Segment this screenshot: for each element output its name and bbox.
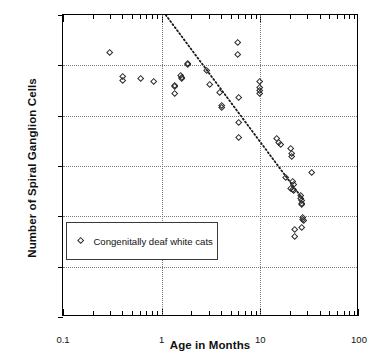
- x-axis-tick-minor: [245, 311, 246, 316]
- legend-entry: Congenitally deaf white cats: [67, 223, 217, 259]
- x-axis-tick-top: [256, 15, 257, 20]
- y-axis-tick: [58, 317, 63, 318]
- y-axis-tick: [58, 166, 63, 167]
- x-axis-tick-minor: [344, 311, 345, 316]
- x-axis-tick-minor: [290, 311, 291, 316]
- x-axis-tick-top: [132, 15, 133, 20]
- x-axis-tick-top: [337, 15, 338, 20]
- x-axis-tick-minor: [191, 311, 192, 316]
- y-axis-tick: [58, 216, 63, 217]
- data-point-marker: [137, 75, 145, 83]
- x-axis-tick-top: [209, 15, 210, 20]
- x-axis-title: Age in Months: [62, 339, 358, 351]
- x-axis-tick-minor: [307, 311, 308, 316]
- data-point-marker: [206, 81, 214, 89]
- x-axis-tick-minor: [93, 311, 94, 316]
- data-point-marker: [203, 67, 211, 75]
- gridline-horizontal: [63, 216, 357, 217]
- x-axis-tick-top: [307, 15, 308, 20]
- y-axis-title: Number of Spiral Ganglion Cells: [26, 18, 38, 318]
- x-axis-tick-top: [245, 15, 246, 20]
- x-axis-tick-top: [344, 15, 345, 20]
- x-axis-tick-minor: [251, 311, 252, 316]
- x-axis-tick-minor: [231, 311, 232, 316]
- gridline-horizontal: [63, 166, 357, 167]
- data-point-marker: [235, 133, 243, 141]
- x-axis-tick-minor: [132, 311, 133, 316]
- y-axis-tick: [58, 116, 63, 117]
- y-axis-tick: [58, 65, 63, 66]
- x-axis-tick-minor: [354, 311, 355, 316]
- data-point-marker: [235, 119, 243, 127]
- x-axis-tick-major: [358, 309, 359, 316]
- x-axis-tick-minor: [146, 311, 147, 316]
- x-axis-tick-minor: [337, 311, 338, 316]
- x-axis-tick-major: [63, 309, 64, 316]
- y-axis-tick: [58, 267, 63, 268]
- data-point-marker: [282, 174, 290, 182]
- gridline-horizontal: [63, 116, 357, 117]
- x-axis-tick-minor: [320, 311, 321, 316]
- data-point-marker: [234, 39, 242, 47]
- data-point-marker: [235, 94, 243, 102]
- x-axis-tick-top: [221, 15, 222, 20]
- legend-diamond-icon: [77, 237, 85, 245]
- x-axis-tick-top: [238, 15, 239, 20]
- x-axis-tick-minor: [157, 311, 158, 316]
- x-axis-tick-minor: [209, 311, 210, 316]
- x-axis-tick-top: [146, 15, 147, 20]
- x-axis-tick-minor: [329, 311, 330, 316]
- x-axis-tick-top: [93, 15, 94, 20]
- x-axis-tick-minor: [221, 311, 222, 316]
- data-point-marker: [106, 49, 114, 57]
- data-point-marker: [234, 51, 242, 59]
- x-axis-tick-minor: [238, 311, 239, 316]
- x-axis-tick-top: [349, 15, 350, 20]
- x-axis-tick-top: [110, 15, 111, 20]
- x-axis-tick-top: [290, 15, 291, 20]
- x-axis-tick-minor: [152, 311, 153, 316]
- gridline-vertical: [162, 15, 163, 315]
- x-axis-tick-top: [152, 15, 153, 20]
- x-axis-tick-minor: [140, 311, 141, 316]
- x-axis-tick-minor: [349, 311, 350, 316]
- x-axis-tick-top: [354, 15, 355, 20]
- x-axis-tick-top: [251, 15, 252, 20]
- gridline-horizontal: [63, 267, 357, 268]
- x-axis-tick-top: [231, 15, 232, 20]
- legend: Congenitally deaf white cats: [66, 222, 218, 260]
- gridline-vertical: [260, 15, 261, 315]
- data-point-marker: [291, 233, 299, 241]
- data-point-marker: [308, 169, 316, 177]
- legend-label: Congenitally deaf white cats: [93, 236, 212, 247]
- x-axis-tick-top: [140, 15, 141, 20]
- x-axis-tick-top: [191, 15, 192, 20]
- data-point-marker: [290, 187, 298, 195]
- data-point-marker: [277, 141, 285, 149]
- x-axis-tick-minor: [122, 311, 123, 316]
- data-point-marker: [298, 224, 306, 232]
- x-axis-tick-minor: [256, 311, 257, 316]
- x-axis-tick-top: [63, 15, 64, 22]
- gridline-horizontal: [63, 65, 357, 66]
- x-axis-tick-top: [157, 15, 158, 20]
- data-point-marker: [150, 78, 158, 86]
- x-axis-tick-top: [122, 15, 123, 20]
- x-axis-tick-top: [329, 15, 330, 20]
- data-point-marker: [216, 89, 224, 97]
- x-axis-tick-top: [320, 15, 321, 20]
- x-axis-tick-minor: [110, 311, 111, 316]
- plot-area: 010,00020,00030,00040,00050,00060,0000.1…: [62, 14, 358, 316]
- data-point-marker: [171, 90, 179, 98]
